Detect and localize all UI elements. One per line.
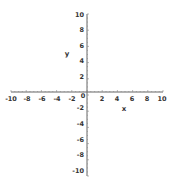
x-tick-label: 2 bbox=[100, 95, 105, 103]
x-tick-label: -6 bbox=[38, 95, 46, 103]
x-tick-label: -4 bbox=[53, 95, 61, 103]
y-axis-ticks bbox=[87, 14, 89, 176]
y-tick-label: -8 bbox=[77, 151, 85, 159]
y-tick-label: 8 bbox=[79, 26, 84, 34]
y-tick-label: -6 bbox=[77, 136, 85, 144]
y-tick-label: -4 bbox=[77, 120, 85, 128]
y-tick-label: -2 bbox=[77, 104, 84, 112]
x-tick-label: 6 bbox=[130, 95, 135, 103]
x-tick-label: -8 bbox=[23, 95, 31, 103]
x-tick-label: -10 bbox=[5, 95, 17, 103]
x-tick-label: 10 bbox=[157, 95, 167, 103]
x-tick-label: 4 bbox=[115, 95, 120, 103]
x-tick-label: 8 bbox=[145, 95, 150, 103]
x-tick-label: -2 bbox=[68, 95, 75, 103]
y-tick-label: 4 bbox=[79, 57, 84, 65]
y-tick-label: 6 bbox=[79, 42, 84, 50]
y-tick-label: -10 bbox=[72, 167, 84, 175]
y-tick-label: 2 bbox=[79, 73, 84, 81]
coordinate-plane: -10 -8 -6 -4 -2 0 2 4 6 8 10 10 8 6 4 2 … bbox=[0, 0, 176, 186]
y-tick-label: 10 bbox=[75, 11, 85, 19]
x-axis-label: x bbox=[122, 105, 127, 113]
y-axis-label: y bbox=[65, 50, 70, 58]
origin-label: 0 bbox=[81, 92, 86, 100]
